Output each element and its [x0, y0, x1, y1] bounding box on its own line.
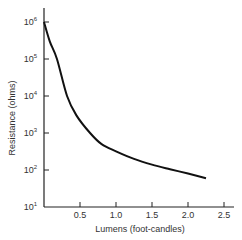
y-axis-title: Resistance (ohms) — [7, 80, 17, 155]
x-tick-label: 1.5 — [146, 210, 159, 220]
resistance-curve — [44, 22, 206, 178]
y-tick-label: 101 — [24, 201, 38, 212]
x-tick-label: 2.5 — [218, 210, 231, 220]
x-tick-label: 1.0 — [110, 210, 123, 220]
x-tick-label: 0.5 — [74, 210, 87, 220]
x-axis: 0.51.01.52.02.5 — [44, 202, 234, 220]
y-tick-label: 106 — [24, 16, 38, 27]
y-tick-label: 103 — [24, 127, 38, 138]
y-tick-label: 104 — [24, 90, 38, 101]
x-tick-label: 2.0 — [182, 210, 195, 220]
y-tick-label: 105 — [24, 53, 38, 64]
chart: 101102103104105106 0.51.01.52.02.5 Resis… — [0, 0, 242, 240]
y-tick-label: 102 — [24, 164, 38, 175]
y-axis: 101102103104105106 — [24, 8, 49, 212]
x-axis-title: Lumens (foot-candles) — [95, 224, 185, 234]
